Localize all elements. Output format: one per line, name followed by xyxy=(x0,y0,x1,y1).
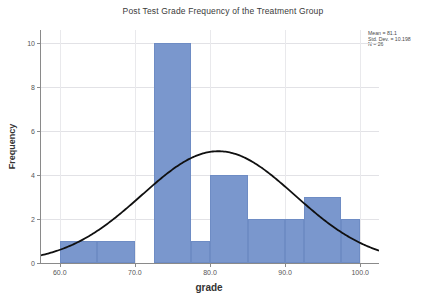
y-axis-tick xyxy=(37,87,41,88)
chart-title: Post Test Grade Frequency of the Treatme… xyxy=(0,6,446,16)
x-axis-tick-label: 100.0 xyxy=(351,269,369,276)
x-axis-tick-label: 60.0 xyxy=(53,269,67,276)
x-axis-tick xyxy=(360,263,361,267)
histogram-chart: Post Test Grade Frequency of the Treatme… xyxy=(0,0,446,307)
plot-area: 0246810 60.070.080.090.0100.0 xyxy=(40,30,379,264)
y-axis-tick xyxy=(37,263,41,264)
y-axis-tick-label: 4 xyxy=(31,172,35,179)
y-axis-tick-label: 10 xyxy=(27,40,35,47)
y-axis-tick-label: 0 xyxy=(31,260,35,267)
normal-curve xyxy=(41,30,379,263)
y-axis-title: Frequency xyxy=(6,30,18,263)
x-axis-tick-label: 80.0 xyxy=(203,269,217,276)
x-axis-tick-label: 70.0 xyxy=(128,269,142,276)
x-axis-tick xyxy=(135,263,136,267)
y-axis-tick xyxy=(37,43,41,44)
y-axis-tick-label: 8 xyxy=(31,84,35,91)
x-axis-tick xyxy=(285,263,286,267)
x-axis-title: grade xyxy=(40,282,378,293)
y-axis-tick xyxy=(37,219,41,220)
y-axis-tick xyxy=(37,131,41,132)
x-axis-tick xyxy=(210,263,211,267)
plot-inner xyxy=(41,30,379,263)
y-axis-tick-label: 2 xyxy=(31,216,35,223)
y-axis-tick xyxy=(37,175,41,176)
x-axis-tick xyxy=(60,263,61,267)
y-axis-tick-label: 6 xyxy=(31,128,35,135)
x-axis-tick-label: 90.0 xyxy=(278,269,292,276)
